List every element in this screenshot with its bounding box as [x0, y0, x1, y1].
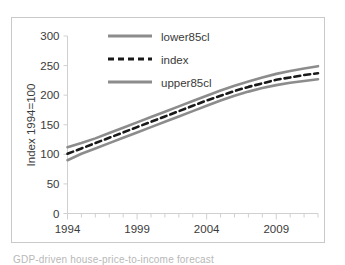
- legend-label-lower85cl: lower85cl: [161, 31, 210, 43]
- y-tick-label: 300: [40, 30, 59, 42]
- y-axis-ticks: [64, 36, 68, 214]
- chart-plot: 050100150200250300 1994199920042009 Inde…: [0, 0, 345, 265]
- y-tick-label: 50: [47, 178, 60, 190]
- y-tick-label: 150: [40, 119, 59, 131]
- x-axis-tick-labels: 1994199920042009: [55, 223, 289, 235]
- x-axis-ticks: [68, 214, 319, 220]
- x-tick-label: 1999: [124, 223, 150, 235]
- chart-legend: lower85clindexupper85cl: [108, 31, 212, 89]
- y-tick-label: 200: [40, 89, 59, 101]
- series-line-lower85cl: [68, 79, 319, 160]
- y-axis-title: Index 1994=100: [25, 84, 37, 167]
- x-tick-label: 1994: [55, 223, 81, 235]
- y-axis-tick-labels: 050100150200250300: [40, 30, 59, 220]
- x-tick-label: 2009: [263, 223, 289, 235]
- legend-label-index: index: [161, 54, 189, 66]
- figure-container: 050100150200250300 1994199920042009 Inde…: [0, 0, 345, 265]
- figure-caption: GDP-driven house-price-to-income forecas…: [13, 254, 333, 265]
- y-tick-label: 250: [40, 60, 59, 72]
- y-tick-label: 100: [40, 148, 59, 160]
- legend-label-upper85cl: upper85cl: [161, 77, 212, 89]
- axis-lines: [68, 36, 319, 214]
- y-tick-label: 0: [53, 208, 59, 220]
- x-tick-label: 2004: [194, 223, 220, 235]
